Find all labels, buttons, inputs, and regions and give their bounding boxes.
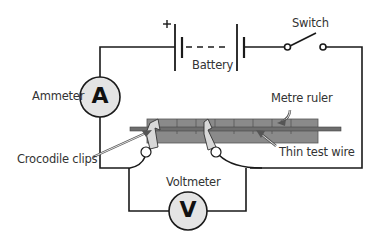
voltmeter-letter: V [168, 197, 208, 222]
switch-symbol [285, 33, 327, 50]
label-thin-test-wire: Thin test wire [279, 145, 355, 159]
label-switch: Switch [292, 16, 329, 30]
label-crocodile-clips: Crocodile clips [17, 152, 97, 166]
plus-icon [163, 20, 171, 28]
label-metre-ruler: Metre ruler [271, 91, 333, 105]
label-battery: Battery [192, 58, 233, 72]
test-wire [130, 127, 341, 131]
ammeter-letter: A [80, 83, 120, 108]
label-voltmeter: Voltmeter [166, 175, 221, 189]
label-ammeter: Ammeter [32, 89, 84, 103]
